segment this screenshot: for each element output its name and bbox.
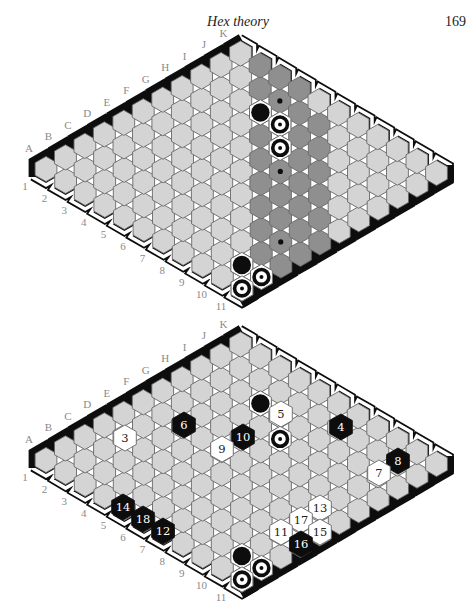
hex-cell-I9 [348,160,370,185]
hex-cell-H2 [191,88,213,113]
hex-cell-F6 [230,158,252,183]
hex-cell-E3 [152,425,174,450]
move-number-label: 18 [136,512,151,526]
hex-cell-J7 [328,124,350,149]
hex-cell-B9 [211,531,233,556]
hex-cell-E6 [211,461,233,486]
row-label: 8 [159,555,165,567]
hex-cell-C8 [211,217,233,242]
hex-cell-H10 [348,474,370,499]
row-label: 10 [196,288,208,300]
hex-cell-J5 [289,100,311,125]
column-label: K [220,318,228,330]
hex-cell-D2 [113,134,135,159]
row-label: 9 [179,567,185,579]
black-stone [233,256,251,274]
hex-cell-B2 [74,157,96,182]
top-board: ABCDEFGHIJK1234567891011 [22,27,450,312]
hex-cell-E4 [172,437,194,462]
row-label: 1 [22,471,28,483]
hex-cell-I3 [230,379,252,404]
column-label: F [123,375,129,387]
hex-cell-F8 [270,473,292,498]
black-stone [233,547,251,565]
hex-cell-C3 [113,157,135,182]
hex-cell-G9 [309,183,331,208]
hex-cell-J3 [249,76,271,101]
hex-cell-G10 [328,195,350,220]
hex-cell-F5 [211,147,233,172]
hex-cell-I3 [230,88,252,113]
hex-cell-G4 [211,123,233,148]
hex-cell-B3 [94,169,116,194]
column-label: H [161,352,169,364]
hex-cell-H3 [210,99,232,124]
row-label: 7 [140,543,146,555]
hex-cell-J6 [308,403,330,428]
hex-cell-F7 [250,170,272,195]
hex-cell-G8 [289,171,311,196]
black-stone [251,394,269,412]
hex-cell-G8 [289,462,311,487]
hex-cell-E10 [289,218,311,243]
hex-cell-J9 [367,148,389,173]
hex-cell-F2 [152,111,174,136]
hex-cell-B3 [94,460,116,485]
column-label: I [183,50,187,62]
hex-cell-E7 [231,182,253,207]
hex-cell-G3 [191,111,213,136]
hex-cell-H9 [328,462,350,487]
hex-cell-D8 [231,496,253,521]
hex-cell-B7 [172,217,194,242]
hex-cell-G2 [171,390,193,415]
row-label: 5 [101,228,107,240]
hex-cell-G4 [211,414,233,439]
dot-marker-icon [278,239,283,244]
hex-cell-B8 [192,520,214,545]
hex-cell-B6 [153,205,175,230]
column-label: D [83,107,91,119]
move-number-label: 10 [236,430,251,444]
hex-cell-F3 [172,123,194,148]
hex-cell-F9 [289,194,311,219]
hex-cell-J2 [230,355,252,380]
column-label: C [64,410,71,422]
hex-cell-F7 [250,461,272,486]
row-label: 6 [120,531,126,543]
move-number-label: 9 [218,442,225,456]
column-label: J [202,38,207,50]
move-number-label: 6 [180,418,187,432]
hex-cell-H8 [308,450,330,475]
move-number-label: 14 [116,500,131,514]
hex-cell-E8 [250,194,272,219]
column-label: H [161,61,169,73]
hex-cell-B2 [74,448,96,473]
hex-cell-H3 [210,390,232,415]
hex-cell-D8 [231,205,253,230]
move-number-label: 16 [294,537,309,551]
hex-cell-B8 [192,229,214,254]
hex-cell-F4 [191,135,213,160]
hex-cell-C2 [94,145,116,170]
hex-cell-J10 [387,160,409,185]
hex-cell-C7 [192,496,214,521]
column-label: B [45,130,52,142]
hex-cell-G5 [230,135,252,160]
hex-cell-J4 [269,379,291,404]
move-number-label: 15 [313,525,328,539]
row-label: 10 [196,579,208,591]
row-label: 6 [120,240,126,252]
move-number-label: 3 [121,431,128,445]
bottom-board: 3651094871418121317151116ABCDEFGHIJK1234… [22,318,450,603]
hex-cell-E9 [270,206,292,231]
column-label: E [103,96,110,108]
move-number-label: 5 [277,407,284,421]
hex-cell-D5 [172,461,194,486]
hex-cell-I8 [328,148,350,173]
row-label: 1 [22,180,28,192]
hex-cell-C9 [231,229,253,254]
hex-cell-F8 [270,182,292,207]
hex-cell-D7 [211,193,233,218]
hex-cell-D9 [250,508,272,533]
hex-cell-E7 [231,473,253,498]
